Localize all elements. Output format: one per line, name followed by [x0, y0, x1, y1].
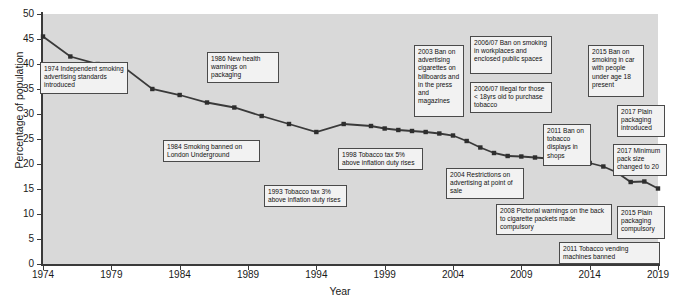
y-tick-label: 5 — [12, 234, 34, 244]
x-tick-mark — [43, 266, 44, 270]
y-tick-mark — [37, 264, 42, 265]
x-tick-mark — [316, 266, 317, 270]
y-tick-mark — [37, 39, 42, 40]
annotation-2008: 2008 Pictorial warnings on the back to c… — [496, 204, 612, 235]
x-tick-mark — [180, 266, 181, 270]
x-tick-mark — [111, 266, 112, 270]
x-tick-label: 1984 — [160, 270, 200, 280]
y-axis-title: Percentage of population — [13, 35, 25, 185]
smoking-prevalence-line-chart: 05101520253035404550 1974197919841989199… — [0, 0, 678, 299]
annotation-2003: 2003 Ban on advertising cigarettes on bi… — [414, 45, 464, 117]
annotation-2017-pack: 2017 Minimum pack size changed to 20 — [613, 144, 667, 176]
y-tick-mark — [37, 189, 42, 190]
x-tick-mark — [248, 266, 249, 270]
x-tick-mark — [453, 266, 454, 270]
x-tick-label: 2009 — [501, 270, 541, 280]
x-tick-label: 1974 — [23, 270, 63, 280]
annotation-2006-07-ban: 2006/07 Ban on smoking in workplaces and… — [470, 36, 552, 74]
x-tick-label: 2014 — [570, 270, 610, 280]
x-tick-label: 1989 — [228, 270, 268, 280]
y-tick-mark — [37, 214, 42, 215]
y-tick-mark — [37, 139, 42, 140]
annotation-2011-displays: 2011 Ban on tobacco displays in shops — [543, 124, 591, 166]
x-tick-mark — [658, 266, 659, 270]
y-tick-label: 50 — [12, 9, 34, 19]
y-tick-label: 10 — [12, 209, 34, 219]
x-tick-mark — [521, 266, 522, 270]
annotation-1974: 1974 Independent smoking advertising sta… — [40, 62, 128, 94]
x-tick-label: 1979 — [91, 270, 131, 280]
annotation-2015-car: 2015 Ban on smoking in car with people u… — [588, 45, 644, 97]
annotation-1998: 1998 Tobacco tax 5% above inflation duty… — [338, 148, 423, 170]
annotation-1986: 1986 New health warnings on packaging — [207, 52, 279, 83]
annotation-2017-plain: 2017 Plain packaging introduced — [617, 105, 665, 137]
y-tick-mark — [37, 114, 42, 115]
x-axis-title: Year — [280, 285, 400, 297]
x-tick-label: 2004 — [433, 270, 473, 280]
y-tick-mark — [37, 164, 42, 165]
annotation-2006-07-illegal: 2006/07 Illegal for those < 18yrs old to… — [470, 82, 552, 113]
y-tick-label: 15 — [12, 184, 34, 194]
x-tick-label: 1994 — [296, 270, 336, 280]
y-tick-mark — [37, 239, 42, 240]
x-tick-label: 1999 — [365, 270, 405, 280]
y-tick-mark — [37, 14, 42, 15]
y-tick-label: 0 — [12, 259, 34, 269]
x-tick-mark — [590, 266, 591, 270]
annotation-1993: 1993 Tobacco tax 3% above inflation duty… — [264, 185, 347, 207]
x-tick-mark — [385, 266, 386, 270]
annotation-2015-plain: 2015 Plain packaging compulsory — [617, 206, 665, 239]
annotation-2004: 2004 Restrictions on advertising at poin… — [446, 168, 524, 199]
annotation-2011-vending: 2011 Tobacco vending machines banned — [559, 242, 660, 264]
annotation-1984: 1984 Smoking banned on London Undergroun… — [163, 140, 260, 162]
x-tick-label: 2019 — [638, 270, 678, 280]
